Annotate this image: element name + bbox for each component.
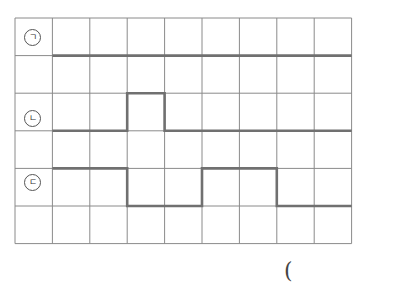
figure-path bbox=[52, 168, 351, 206]
label-digeut: ㄷ bbox=[24, 174, 41, 191]
answer-parenthesis: ( bbox=[284, 258, 293, 283]
label-nieun: ㄴ bbox=[24, 110, 41, 127]
grid-diagram bbox=[0, 0, 397, 295]
label-giyeok: ㄱ bbox=[24, 29, 41, 46]
